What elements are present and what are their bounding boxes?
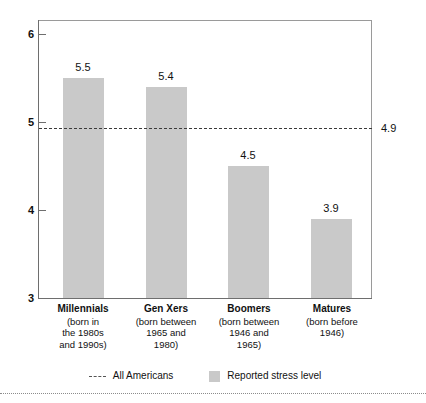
- y-tick-label-5: 5: [8, 117, 34, 128]
- x-category-sub-boomers: (born between 1946 and 1965): [201, 316, 297, 350]
- x-category-sub-millennials: (born in the 1980s and 1990s): [35, 316, 131, 350]
- bar-value-boomers: 4.5: [218, 150, 278, 161]
- legend-item-all-americans: All Americans: [89, 370, 174, 382]
- x-category-sub-gen-xers: (born between 1965 and 1980): [118, 316, 214, 350]
- bar-gen-xers: [146, 87, 187, 298]
- x-axis-line: [38, 298, 372, 299]
- chart-legend: All Americans Reported stress level: [38, 368, 372, 384]
- x-category-name-millennials: Millennials: [35, 303, 131, 316]
- legend-item-reported-stress: Reported stress level: [209, 370, 321, 382]
- reference-line-value-label: 4.9: [381, 123, 396, 134]
- bar-value-gen-xers: 5.4: [136, 71, 196, 82]
- square-swatch-icon: [209, 371, 220, 382]
- y-tick-6: [38, 34, 46, 35]
- x-category-millennials: Millennials (born in the 1980s and 1990s…: [35, 303, 131, 350]
- legend-label-all-americans: All Americans: [113, 370, 174, 382]
- x-category-name-gen-xers: Gen Xers: [118, 303, 214, 316]
- y-tick-label-6: 6: [8, 29, 34, 40]
- stress-level-bar-chart: 6 5 4 3 5.5 5.4 4.5 3.9 4.9 Millennials …: [0, 0, 426, 403]
- bottom-dotted-divider: [0, 393, 426, 394]
- y-tick-label-4: 4: [8, 205, 34, 216]
- y-axis-line: [38, 20, 39, 299]
- x-category-sub-matures: (born before 1946): [284, 316, 380, 339]
- y-tick-4: [38, 210, 46, 211]
- x-category-boomers: Boomers (born between 1946 and 1965): [201, 303, 297, 350]
- dashed-line-icon: [89, 376, 106, 377]
- y-tick-5: [38, 122, 46, 123]
- bar-value-millennials: 5.5: [53, 62, 113, 73]
- all-americans-reference-line: [39, 128, 372, 129]
- x-category-matures: Matures (born before 1946): [284, 303, 380, 339]
- y-tick-3: [38, 298, 46, 299]
- bar-matures: [311, 219, 352, 298]
- x-category-gen-xers: Gen Xers (born between 1965 and 1980): [118, 303, 214, 350]
- legend-label-reported-stress: Reported stress level: [227, 370, 321, 382]
- bar-boomers: [228, 166, 269, 298]
- y-tick-label-3: 3: [8, 293, 34, 304]
- bar-value-matures: 3.9: [301, 203, 361, 214]
- x-category-name-boomers: Boomers: [201, 303, 297, 316]
- x-category-name-matures: Matures: [284, 303, 380, 316]
- bar-millennials: [63, 78, 104, 298]
